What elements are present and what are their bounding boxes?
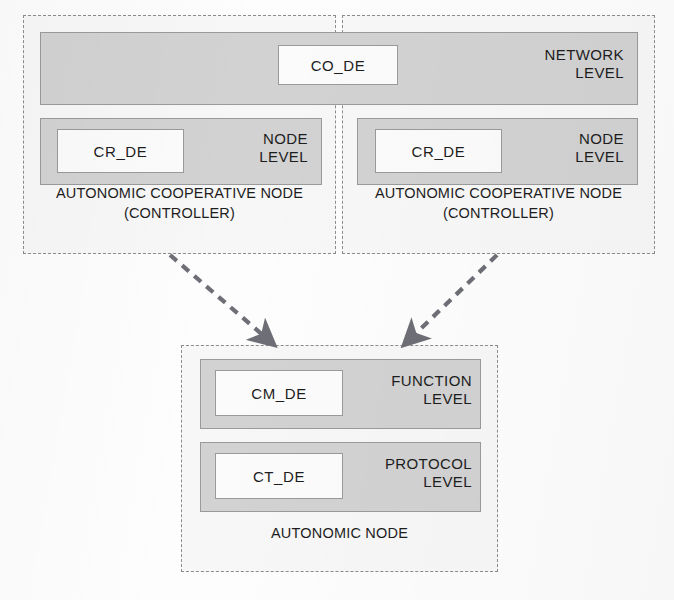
node-level-right-caption: NODE LEVEL (516, 130, 624, 167)
container-left-controller-caption: AUTONOMIC COOPERATIVE NODE (CONTROLLER) (24, 184, 335, 223)
cr-de-box-left[interactable]: CR_DE (57, 129, 184, 173)
cr-de-box-right[interactable]: CR_DE (375, 129, 502, 173)
cr-de-left-label: CR_DE (94, 143, 148, 160)
node-level-left-caption: NODE LEVEL (200, 130, 308, 167)
arrow-left-to-node (170, 255, 272, 343)
ct-de-box[interactable]: CT_DE (215, 453, 343, 499)
function-level-caption: FUNCTION LEVEL (352, 372, 472, 409)
architecture-diagram: AUTONOMIC COOPERATIVE NODE (CONTROLLER) … (0, 0, 674, 600)
container-autonomic-node-caption: AUTONOMIC NODE (182, 524, 497, 544)
cr-de-right-label: CR_DE (412, 143, 466, 160)
network-level-caption: NETWORK LEVEL (478, 46, 624, 83)
cm-de-label: CM_DE (251, 385, 307, 402)
container-right-controller-caption: AUTONOMIC COOPERATIVE NODE (CONTROLLER) (343, 184, 654, 223)
co-de-label: CO_DE (311, 57, 366, 74)
protocol-level-caption: PROTOCOL LEVEL (352, 455, 472, 492)
co-de-box[interactable]: CO_DE (278, 45, 398, 85)
ct-de-label: CT_DE (253, 468, 305, 485)
cm-de-box[interactable]: CM_DE (215, 370, 343, 416)
arrow-right-to-node (406, 255, 497, 343)
